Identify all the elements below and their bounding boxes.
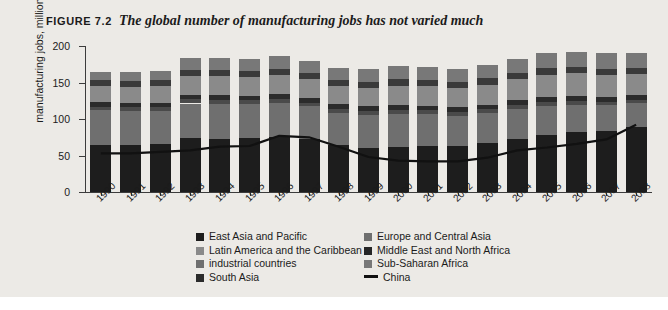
y-tick-label: 150 [30, 77, 70, 89]
legend-item-3[interactable]: South Asia [196, 269, 362, 283]
legend-color-swatch [364, 260, 372, 268]
legend-color-swatch [196, 274, 204, 282]
legend-label: Latin America and the Caribbean [209, 244, 362, 256]
legend-item-0[interactable]: Europe and Central Asia [364, 228, 510, 242]
y-tick [79, 192, 85, 193]
figure-number: FIGURE 7.2 [46, 15, 112, 27]
china-line-path [101, 125, 636, 162]
legend-column-left: East Asia and PacificLatin America and t… [196, 228, 362, 282]
y-tick-label: 0 [30, 186, 70, 198]
y-tick [79, 83, 85, 84]
legend-color-swatch [364, 233, 372, 241]
legend-label: industrial countries [209, 257, 297, 269]
figure-caption: The global number of manufacturing jobs … [112, 13, 483, 28]
y-tick [79, 46, 85, 47]
legend-color-swatch [196, 247, 204, 255]
legend-item-1[interactable]: Middle East and North Africa [364, 242, 510, 256]
y-tick [79, 119, 85, 120]
legend-color-swatch [196, 233, 204, 241]
legend-item-2[interactable]: Sub-Saharan Africa [364, 255, 510, 269]
legend-line-swatch [364, 275, 378, 278]
legend-label: China [383, 271, 410, 283]
y-tick-label: 100 [30, 113, 70, 125]
y-tick [79, 156, 85, 157]
legend-label: South Asia [209, 271, 259, 283]
legend-item-0[interactable]: East Asia and Pacific [196, 228, 362, 242]
legend-item-2[interactable]: industrial countries [196, 255, 362, 269]
china-trend-line [86, 46, 651, 192]
figure-title: FIGURE 7.2The global number of manufactu… [46, 13, 483, 29]
legend-label: East Asia and Pacific [209, 230, 307, 242]
legend-label: Europe and Central Asia [377, 230, 491, 242]
legend-color-swatch [196, 260, 204, 268]
legend-color-swatch [364, 247, 372, 255]
y-tick-label: 200 [30, 40, 70, 52]
figure-panel: FIGURE 7.2The global number of manufactu… [0, 0, 668, 297]
legend-label: Sub-Saharan Africa [377, 257, 468, 269]
legend-item-3[interactable]: China [364, 269, 510, 283]
legend-column-right: Europe and Central AsiaMiddle East and N… [364, 228, 510, 282]
legend-item-1[interactable]: Latin America and the Caribbean [196, 242, 362, 256]
y-tick-label: 50 [30, 150, 70, 162]
legend-label: Middle East and North Africa [377, 244, 510, 256]
